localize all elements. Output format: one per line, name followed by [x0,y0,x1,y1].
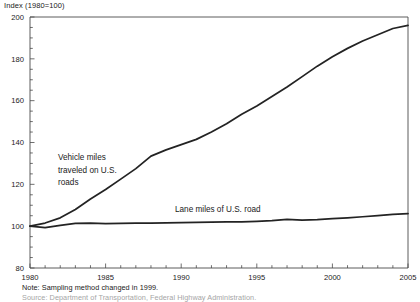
x-tick-label: 1980 [22,273,39,282]
y-tick-label: 100 [11,222,24,231]
series-annotation-vehicle-miles: Vehicle milestraveled on U.S.roads [58,153,117,187]
y-tick-label: 120 [11,180,24,189]
y-tick-label: 180 [11,55,24,64]
y-tick-label: 140 [11,138,24,147]
x-tick-label: 2000 [324,273,341,282]
x-tick-label: 1990 [173,273,190,282]
x-tick-label: 1995 [248,273,265,282]
y-tick-label: 200 [11,13,24,22]
y-axis-tick-marks [30,17,35,268]
plot-area-frame [30,17,408,268]
x-axis-tick-labels: 198019851990199520002005 [22,273,417,282]
line-chart-plot: 80100120140160180200 1980198519901995200… [0,0,420,302]
chart-note-primary: Note: Sampling method changed in 1999. [22,283,158,292]
chart-figure: Index (1980=100) 80100120140160180200 19… [0,0,420,302]
y-tick-label: 160 [11,96,24,105]
x-tick-label: 1985 [97,273,114,282]
series-line-lane-miles [30,214,408,228]
chart-note-source: Source: Department of Transportation, Fe… [22,293,256,302]
y-axis-tick-labels: 80100120140160180200 [11,13,24,273]
y-tick-label: 80 [16,264,24,273]
series-annotation-lane-miles: Lane miles of U.S. road [175,205,261,214]
series-line-vehicle-miles [30,25,408,226]
x-tick-label: 2005 [400,273,417,282]
x-axis-tick-marks [30,264,408,269]
